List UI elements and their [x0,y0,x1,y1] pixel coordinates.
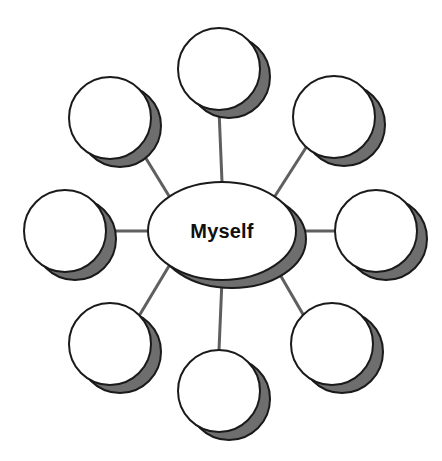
node-right-circle[interactable] [335,190,417,272]
center-node-label: Myself [190,220,254,242]
web-diagram-svg: Myself [0,0,442,461]
web-diagram-canvas: Myself [0,0,442,461]
node-top-left-circle[interactable] [69,77,151,159]
node-left-circle[interactable] [24,190,106,272]
node-top-circle[interactable] [178,28,260,110]
node-bottom-circle[interactable] [178,350,260,432]
node-top-right-circle[interactable] [293,76,375,158]
node-bottom-right-circle[interactable] [291,303,373,385]
node-bottom-left-circle[interactable] [69,303,151,385]
